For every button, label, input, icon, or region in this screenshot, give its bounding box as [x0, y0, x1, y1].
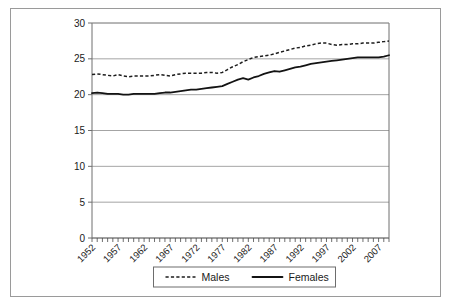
- y-axis-tick-label: 25: [74, 53, 86, 64]
- chart-plot-container: 0510152025301952195719621967197219771982…: [11, 9, 442, 298]
- y-axis-tick-label: 5: [79, 197, 85, 208]
- x-axis-tick-label: 1962: [127, 242, 150, 265]
- line-chart: 0510152025301952195719621967197219771982…: [11, 9, 442, 298]
- x-axis-tick-label: 1997: [309, 242, 332, 265]
- y-axis-tick-label: 15: [74, 125, 86, 136]
- chart-figure-border: 0510152025301952195719621967197219771982…: [10, 8, 441, 297]
- x-axis-tick-label: 1977: [205, 242, 228, 265]
- x-axis-tick-label: 1957: [101, 242, 124, 265]
- x-axis-tick-label: 1982: [231, 242, 254, 265]
- x-axis-tick-label: 1952: [75, 242, 98, 265]
- data-series-females: [92, 55, 389, 94]
- y-axis-tick-label: 20: [74, 89, 86, 100]
- y-axis-tick-label: 0: [79, 233, 85, 244]
- y-axis-tick-label: 30: [74, 18, 86, 29]
- x-axis-tick-label: 2002: [335, 242, 358, 265]
- x-axis-tick-label: 1972: [179, 242, 202, 265]
- legend-label-females: Females: [289, 271, 329, 283]
- y-axis-tick-label: 10: [74, 161, 86, 172]
- x-axis-tick-label: 1967: [153, 242, 176, 265]
- x-axis-tick-label: 1987: [257, 242, 280, 265]
- legend-label-males: Males: [202, 271, 230, 283]
- x-axis-tick-label: 2007: [361, 242, 384, 265]
- x-axis-tick-label: 1992: [283, 242, 306, 265]
